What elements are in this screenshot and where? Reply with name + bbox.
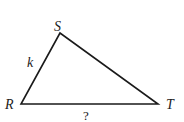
vertex-label-s: S: [54, 19, 61, 34]
vertex-label-r: R: [4, 97, 14, 112]
side-label-rs: k: [27, 55, 34, 70]
side-label-rt: ?: [83, 108, 89, 122]
triangle-rst: [21, 33, 158, 104]
vertex-label-t: T: [166, 97, 175, 112]
triangle-diagram: S R T k ?: [0, 0, 184, 122]
